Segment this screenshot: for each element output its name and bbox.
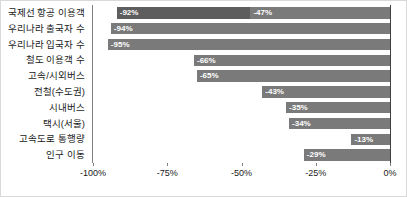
bar (194, 55, 390, 66)
plot-area: -92%-47%-94%-95%-66%-65%-43%-35%-34%-13%… (93, 5, 390, 163)
axis-tick-mark (316, 163, 317, 166)
bar-data-label: -94% (111, 23, 136, 34)
bar-row: -94% (93, 21, 390, 37)
axis-tick-mark (242, 163, 243, 166)
category-label: 전철(수도권) (34, 84, 85, 100)
bar-row: -92%-47% (93, 5, 390, 21)
bar-data-label: -34% (289, 118, 314, 129)
value-axis: -100%-75%-50%-25%0% (1, 166, 407, 184)
bar-row: -66% (93, 52, 390, 68)
category-label: 고속도로 통행량 (19, 131, 85, 147)
axis-tick-label: -100% (80, 168, 106, 178)
category-axis-line (92, 5, 93, 163)
bar-row: -35% (93, 100, 390, 116)
bar-row: -13% (93, 131, 390, 147)
category-label: 고속/시외버스 (28, 68, 85, 84)
category-label: 우리나라 입국자 수 (8, 37, 85, 53)
axis-tick-mark (93, 163, 94, 166)
axis-tick-label: -25% (305, 168, 326, 178)
bar (111, 23, 390, 34)
bar-data-label: -92% (117, 7, 142, 18)
bar-data-label: -65% (197, 70, 222, 81)
axis-tick-mark (390, 163, 391, 166)
bar-data-label: -35% (286, 102, 311, 113)
bar-data-label: -29% (304, 149, 329, 160)
bar-data-label: -43% (262, 86, 287, 97)
axis-tick-label: 0% (383, 168, 396, 178)
category-label: 택시(서울) (43, 116, 85, 132)
bar-chart: 국제선 항공 이용객우리나라 출국자 수우리나라 입국자 수철도 이용객 수고속… (0, 0, 407, 197)
bar (197, 70, 390, 81)
category-label: 철도 이용객 수 (26, 52, 85, 68)
axis-tick-label: -50% (231, 168, 252, 178)
bar-data-label: -66% (194, 55, 219, 66)
bar-row: -43% (93, 84, 390, 100)
bar-data-label: -13% (351, 134, 376, 145)
category-label: 국제선 항공 이용객 (8, 5, 85, 21)
category-axis: 국제선 항공 이용객우리나라 출국자 수우리나라 입국자 수철도 이용객 수고속… (1, 5, 89, 163)
bar-row: -29% (93, 147, 390, 163)
zero-axis-line (390, 5, 391, 163)
bar (108, 39, 390, 50)
bar-row: -65% (93, 68, 390, 84)
axis-tick-label: -75% (157, 168, 178, 178)
bar-row: -95% (93, 37, 390, 53)
category-label: 인구 이동 (46, 147, 85, 163)
bar-data-label: -95% (108, 39, 133, 50)
bar-secondary-data-label: -47% (250, 7, 275, 18)
category-label: 우리나라 출국자 수 (8, 21, 85, 37)
axis-tick-mark (167, 163, 168, 166)
category-label: 시내버스 (49, 100, 85, 116)
bar-row: -34% (93, 116, 390, 132)
